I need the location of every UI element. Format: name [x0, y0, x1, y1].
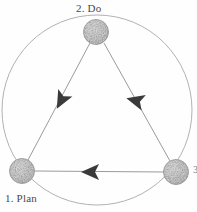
node-check[interactable] [164, 160, 189, 185]
edge-check-to-plan [35, 171, 164, 172]
node-label-check: 3 [193, 165, 197, 175]
arrowhead-do-to-plan [50, 89, 73, 112]
node-do[interactable] [84, 20, 109, 45]
arrowhead-do-to-check [124, 90, 146, 110]
node-label-plan: 1. Plan [5, 193, 37, 204]
node-label-do: 2. Do [76, 3, 101, 14]
diagram-canvas [0, 0, 197, 212]
node-plan[interactable] [10, 159, 35, 184]
arrowhead-check-to-plan [81, 164, 99, 180]
cycle-diagram: 2. Do 1. Plan 3 [0, 0, 197, 212]
